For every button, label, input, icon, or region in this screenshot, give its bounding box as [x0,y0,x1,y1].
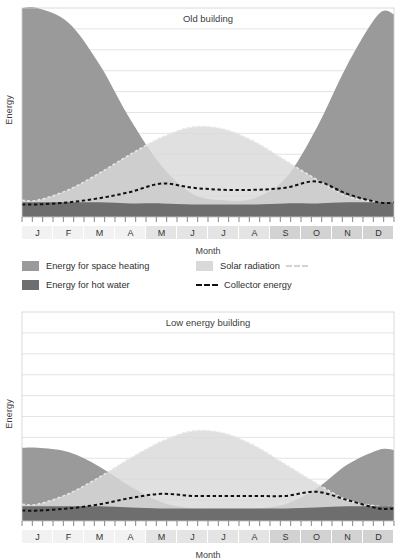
month-tick-label: J [190,532,195,542]
month-tick-label: A [127,228,133,238]
month-tick-label: J [35,228,40,238]
legend-item-space-heating: Energy for space heating [22,261,149,271]
month-tick-label: D [375,228,382,238]
month-tick-label: O [313,228,320,238]
legend-label-hot-water: Energy for hot water [46,280,130,290]
panel-title: Low energy building [166,317,251,328]
month-tick-label: S [282,532,288,542]
month-tick-label: N [344,532,351,542]
month-tick-label: M [158,532,166,542]
x-axis-title: Month [195,246,220,255]
y-axis-label-top: Energy [4,95,14,125]
legend-swatch-space-heating [22,261,39,271]
figure-root: Energy JFMAMJJASONDMonthOld building Ene… [0,0,403,559]
month-tick-label: N [344,228,351,238]
chart-legend: Energy for space heating Energy for hot … [0,259,403,303]
month-tick-label: D [375,532,382,542]
month-tick-label: M [158,228,166,238]
legend-label-space-heating: Energy for space heating [46,261,149,271]
month-tick-label: A [251,228,257,238]
month-tick-label: A [127,532,133,542]
month-tick-label: A [251,532,257,542]
legend-item-hot-water: Energy for hot water [22,280,130,290]
month-tick-label: M [96,532,104,542]
legend-dash-solar-radiation [286,265,308,267]
month-tick-label: J [190,228,195,238]
month-tick-label: M [96,228,104,238]
x-axis-title: Month [195,550,220,559]
legend-swatch-solar-radiation [196,261,213,271]
chart-svg-low-energy-building: JFMAMJJASONDMonthLow energy building [0,304,403,559]
legend-item-solar-radiation: Solar radiation [196,261,308,271]
legend-label-collector-energy: Collector energy [224,280,292,290]
month-tick-label: O [313,532,320,542]
chart-panel-old-building: Energy JFMAMJJASONDMonthOld building [0,0,403,255]
month-tick-label: F [66,228,72,238]
chart-panel-low-energy-building: Energy JFMAMJJASONDMonthLow energy build… [0,304,403,559]
month-tick-label: S [282,228,288,238]
month-tick-label: J [221,228,226,238]
chart-svg-old-building: JFMAMJJASONDMonthOld building [0,0,403,255]
legend-dash-collector-energy [196,284,218,286]
month-tick-label: J [221,532,226,542]
legend-swatch-hot-water [22,280,39,290]
month-tick-label: J [35,532,40,542]
month-tick-label: F [66,532,72,542]
legend-item-collector-energy: Collector energy [196,280,292,290]
y-axis-label-bottom: Energy [4,399,14,429]
panel-title: Old building [183,13,233,24]
legend-label-solar-radiation: Solar radiation [220,261,280,271]
